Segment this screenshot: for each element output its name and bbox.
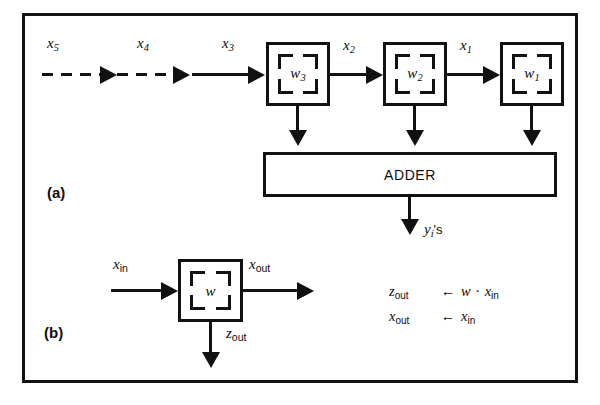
arrowhead-adder-output-icon — [401, 219, 419, 235]
connector-x-out — [243, 289, 303, 292]
assign-arrow-icon: ← — [435, 306, 461, 327]
label-x1: x1 — [460, 38, 472, 56]
panel-tag-b: (b) — [44, 324, 63, 341]
arrowhead-x3-icon — [248, 66, 265, 84]
solid-connector-x3 — [192, 73, 254, 76]
arrowhead-dashed-1-icon — [100, 66, 117, 84]
weight-cell-w2-label: w2 — [386, 65, 444, 83]
arrowhead-w1-adder-icon — [523, 130, 541, 146]
dashed-connector-2 — [117, 73, 175, 76]
weight-cell-w1[interactable]: w1 — [500, 42, 564, 106]
arrowhead-w3-adder-icon — [289, 130, 307, 146]
label-x-in: xin — [113, 257, 128, 274]
label-x2: x2 — [343, 38, 355, 56]
label-x3: x3 — [222, 36, 234, 54]
label-x4: x4 — [137, 36, 149, 54]
arrowhead-z-out-icon — [202, 352, 220, 368]
label-z-out: zout — [226, 326, 246, 343]
label-x5: x5 — [47, 36, 59, 54]
arrowhead-x-out-icon — [297, 282, 314, 300]
weight-cell-w-label: w — [181, 282, 240, 299]
weight-cell-w3[interactable]: w3 — [266, 42, 330, 106]
weight-cell-w2[interactable]: w2 — [383, 42, 447, 106]
assign-arrow-icon: ← — [435, 281, 461, 302]
arrowhead-w2-adder-icon — [406, 130, 424, 146]
weight-cell-w[interactable]: w — [178, 259, 243, 322]
arrowhead-x-in-icon — [161, 282, 178, 300]
weight-cell-w1-label: w1 — [503, 65, 561, 83]
adder-block[interactable]: ADDER — [263, 152, 557, 197]
equation-x-out: xout←xin — [389, 306, 499, 331]
adder-label: ADDER — [384, 167, 436, 183]
label-x-out: xout — [249, 257, 270, 274]
label-yi-outputs: yi's — [424, 222, 443, 240]
arrowhead-x2-icon — [366, 66, 383, 84]
figure-canvas: x5 x4 x3 w3 x2 w2 x1 — [0, 0, 600, 405]
cell-equations: zout←w·xin xout←xin — [389, 281, 499, 331]
equation-z-out: zout←w·xin — [389, 281, 499, 306]
panel-tag-a: (a) — [47, 184, 65, 201]
arrowhead-x1-icon — [483, 66, 500, 84]
weight-cell-w3-label: w3 — [269, 65, 327, 83]
dashed-connector-1 — [42, 73, 102, 76]
connector-x-in — [111, 289, 167, 292]
arrowhead-dashed-2-icon — [173, 66, 190, 84]
